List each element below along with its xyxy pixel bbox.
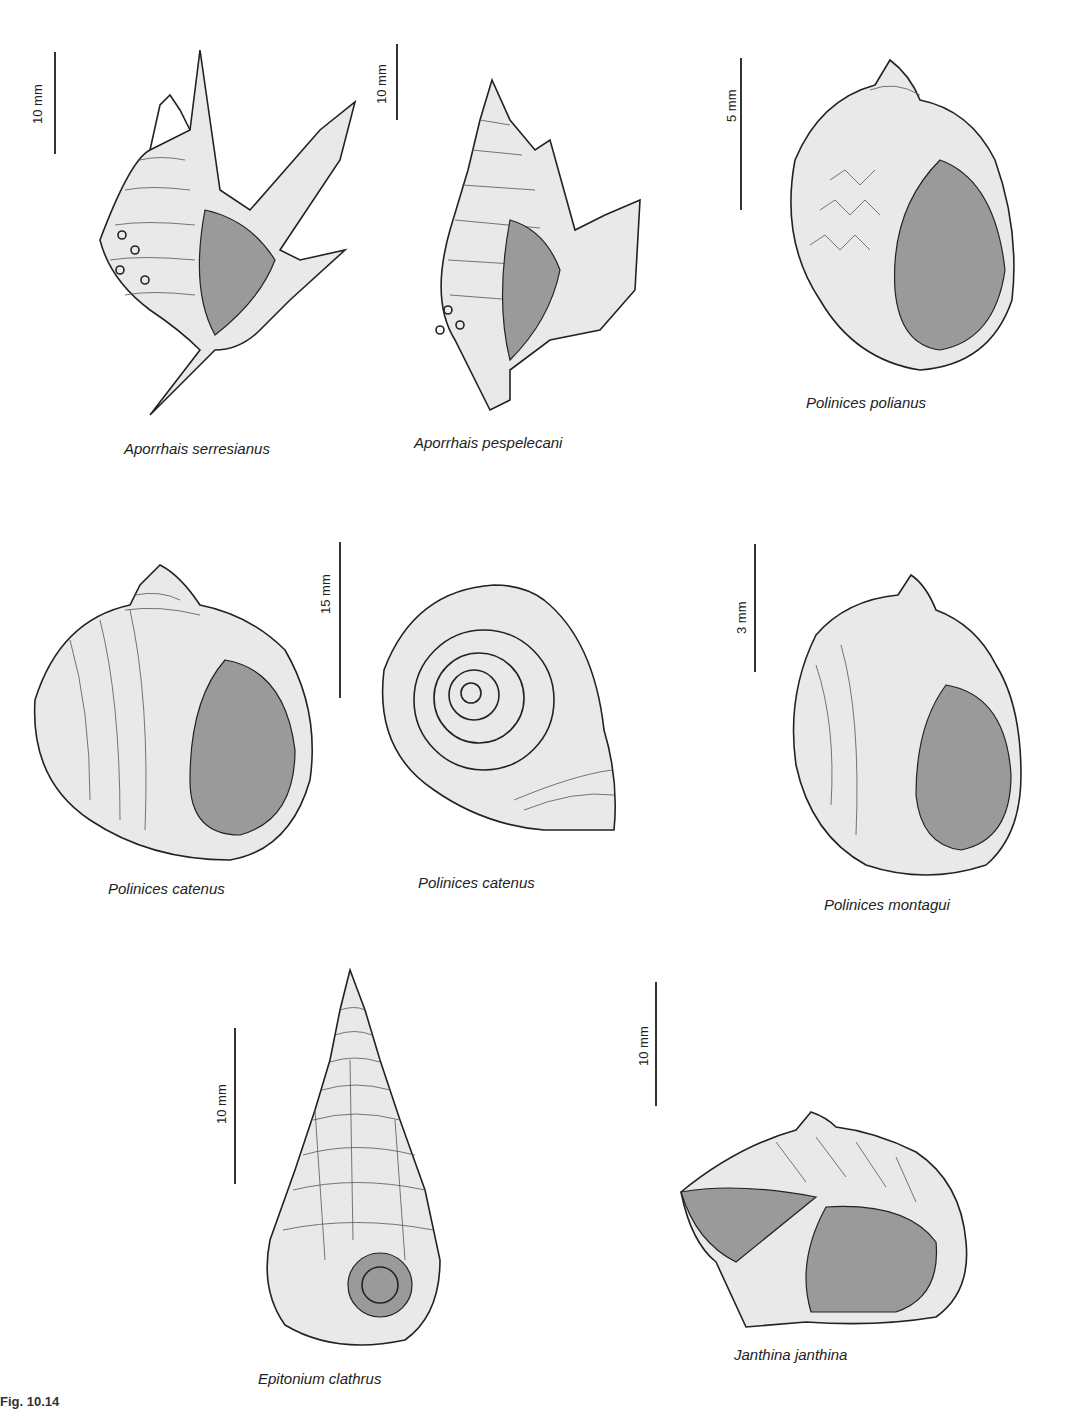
scale-bar-aporrhais-pespelecani	[396, 44, 398, 120]
scale-label-polinices-montagui: 3 mm	[734, 602, 749, 635]
aporrhais-serresianus-illustration	[90, 50, 360, 420]
janthina-janthina-illustration	[676, 1112, 976, 1332]
epitonium-clathrus-illustration	[255, 970, 455, 1350]
polinices-catenus-apical-illustration	[374, 580, 624, 860]
caption-aporrhais-serresianus: Aporrhais serresianus	[124, 440, 270, 457]
caption-epitonium-clathrus: Epitonium clathrus	[258, 1370, 381, 1387]
scale-label-janthina-janthina: 10 mm	[636, 1026, 651, 1066]
scale-bar-polinices-catenus	[339, 542, 341, 698]
scale-bar-janthina-janthina	[655, 982, 657, 1106]
scale-label-aporrhais-pespelecani: 10 mm	[374, 64, 389, 104]
scale-label-polinices-catenus: 15 mm	[318, 574, 333, 614]
polinices-polianus-illustration	[780, 60, 1020, 380]
polinices-catenus-apertural-illustration	[30, 560, 320, 870]
scale-bar-polinices-polianus	[740, 58, 742, 210]
caption-janthina-janthina: Janthina janthina	[734, 1346, 847, 1363]
scale-label-aporrhais-serresianus: 10 mm	[30, 84, 45, 124]
aporrhais-pespelecani-illustration	[410, 80, 650, 420]
scale-label-polinices-polianus: 5 mm	[724, 90, 739, 123]
scale-bar-aporrhais-serresianus	[54, 52, 56, 154]
caption-polinices-polianus: Polinices polianus	[806, 394, 926, 411]
figure-label: Fig. 10.14	[0, 1394, 59, 1409]
polinices-montagui-illustration	[786, 575, 1026, 885]
caption-polinices-catenus-apical: Polinices catenus	[418, 874, 535, 891]
caption-aporrhais-pespelecani: Aporrhais pespelecani	[414, 434, 562, 451]
scale-bar-epitonium-clathrus	[234, 1028, 236, 1184]
caption-polinices-catenus-apertural: Polinices catenus	[108, 880, 225, 897]
scale-bar-polinices-montagui	[754, 544, 756, 672]
scale-label-epitonium-clathrus: 10 mm	[214, 1084, 229, 1124]
caption-polinices-montagui: Polinices montagui	[824, 896, 950, 913]
